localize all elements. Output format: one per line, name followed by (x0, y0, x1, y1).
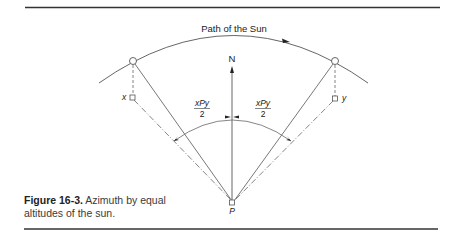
left-sun-to-p-line (135, 64, 232, 201)
north-arrow-icon (230, 66, 234, 73)
north-label: N (229, 53, 236, 64)
point-p-marker (230, 200, 235, 205)
point-x-label: x (121, 92, 127, 102)
point-p-label: P (229, 206, 235, 216)
angle-label-right-numerator: xPy (255, 98, 271, 108)
angle-label-left-numerator: xPy (194, 98, 210, 108)
figure-caption: Figure 16-3. Azimuth by equal altitudes … (24, 194, 204, 219)
sun-path-arrow-icon (282, 39, 290, 44)
sun-position-left (130, 58, 137, 65)
figure-number: Figure 16-3. (24, 194, 83, 206)
angle-arrow-mid-left-icon (225, 116, 231, 119)
right-sun-to-p-line (234, 64, 333, 201)
angle-label-left-denominator: 2 (200, 109, 205, 119)
y-to-p-dashed (234, 101, 333, 201)
point-y-marker (333, 96, 338, 101)
sun-position-right (332, 58, 339, 65)
x-to-p-dashed (134, 100, 232, 201)
angle-arrow-mid-right-icon (233, 116, 239, 119)
point-x-marker (130, 95, 135, 100)
angle-label-right-denominator: 2 (261, 109, 266, 119)
point-y-label: y (341, 93, 347, 103)
path-of-sun-label: Path of the Sun (201, 23, 267, 34)
angle-arc (174, 120, 291, 141)
